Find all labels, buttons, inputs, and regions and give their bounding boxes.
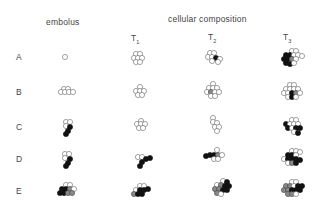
cluster-c-t3 bbox=[283, 117, 302, 135]
cluster-b-t2 bbox=[204, 81, 221, 98]
cluster-c-t2 bbox=[210, 115, 221, 133]
cluster-c-t1 bbox=[134, 118, 147, 130]
cluster-b-t1 bbox=[133, 84, 146, 97]
cluster-d-t2 bbox=[203, 147, 224, 161]
cluster-d-embolus bbox=[62, 151, 72, 168]
cluster-a-t2 bbox=[205, 50, 222, 64]
cluster-diagram bbox=[0, 0, 316, 210]
cluster-c-embolus bbox=[63, 119, 72, 136]
cluster-a-embolus bbox=[62, 54, 67, 59]
cluster-a-t1 bbox=[131, 51, 144, 64]
cluster-b-t3 bbox=[281, 82, 302, 99]
cluster-e-t3 bbox=[281, 179, 304, 196]
cluster-b-embolus bbox=[58, 86, 75, 94]
cluster-e-t2 bbox=[212, 178, 231, 196]
cluster-e-embolus bbox=[57, 182, 76, 195]
cluster-d-t3 bbox=[281, 148, 302, 165]
cluster-e-t1 bbox=[131, 183, 150, 196]
cluster-a-t3 bbox=[281, 48, 304, 66]
cluster-d-t1 bbox=[135, 154, 152, 168]
